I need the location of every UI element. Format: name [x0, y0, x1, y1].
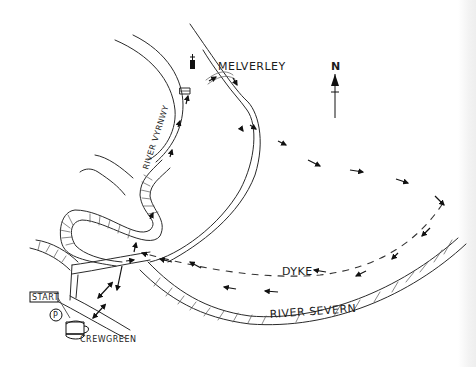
river-vyrnwy-label: RIVER VYRNWY	[141, 104, 170, 171]
start-label: START	[32, 293, 59, 302]
river-vyrnwy: RIVER VYRNWY	[30, 104, 171, 270]
parking-icon: P	[50, 309, 62, 321]
crewgreen-label: CREWGREEN	[80, 335, 136, 344]
route-arrows	[93, 77, 444, 318]
north-arrow-icon: N	[331, 60, 341, 118]
river-severn: RIVER SEVERN	[140, 238, 466, 325]
river-vyrnwy-upper	[80, 155, 133, 195]
svg-text:P: P	[53, 311, 58, 320]
route-map: RIVER VYRNWY RIVER SEVERN DYKE	[0, 0, 476, 367]
melverley-label: MELVERLEY	[218, 60, 286, 73]
river-severn-label: RIVER SEVERN	[269, 302, 356, 321]
dyke: DYKE	[150, 200, 445, 278]
dyke-label: DYKE	[282, 265, 313, 278]
church-icon	[190, 54, 195, 69]
svg-text:N: N	[331, 60, 341, 73]
